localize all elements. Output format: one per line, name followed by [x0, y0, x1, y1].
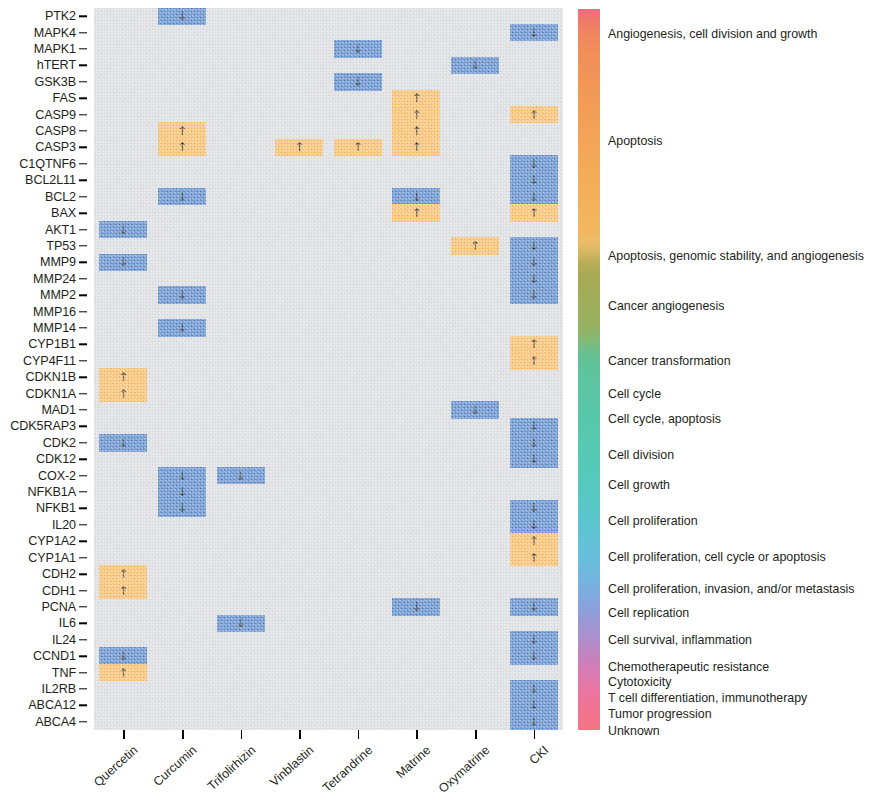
- compound-axis-tick: [534, 730, 536, 739]
- gene-label-c1qtnf6: C1QTNF6: [19, 158, 76, 170]
- down-arrow-icon: ↓: [236, 617, 246, 629]
- gene-label-fas: FAS: [53, 92, 77, 104]
- gene-axis-tick: [79, 606, 87, 607]
- gene-label-nfkb1: NFKB1: [36, 502, 76, 514]
- heatmap-cell: ↓: [510, 237, 558, 255]
- down-arrow-icon: ↓: [529, 716, 539, 728]
- gene-axis-tick: [79, 48, 87, 49]
- heatmap-cell: ↑: [392, 139, 440, 157]
- heatmap-cell: ↓: [510, 24, 558, 42]
- legend-entry: Angiogenesis, cell division and growth: [608, 27, 817, 41]
- gene-axis-tick: [79, 393, 87, 394]
- heatmap-cell: ↓: [334, 40, 382, 58]
- gene-label-mapk1: MAPK1: [34, 43, 76, 55]
- gene-axis-tick: [79, 655, 87, 656]
- legend-entry: Tumor progression: [608, 707, 712, 721]
- legend-entry: T cell differentiation, immunotherapy: [608, 691, 807, 705]
- gene-axis-tick: [79, 442, 87, 443]
- heatmap-cell: ↓: [510, 155, 558, 173]
- heatmap-cell: ↑: [510, 533, 558, 551]
- heatmap-cell: ↑: [99, 368, 147, 386]
- down-arrow-icon: ↓: [529, 256, 539, 268]
- up-arrow-icon: ↑: [118, 371, 128, 383]
- gene-label-mapk4: MAPK4: [34, 27, 76, 39]
- gene-axis-tick: [79, 130, 87, 131]
- down-arrow-icon: ↓: [118, 256, 128, 268]
- heatmap-cell: ↓: [392, 188, 440, 206]
- down-arrow-icon: ↓: [529, 699, 539, 711]
- heatmap-cell: ↑: [158, 139, 206, 157]
- gene-axis-tick: [79, 81, 87, 82]
- heatmap-cell: ↓: [158, 500, 206, 518]
- heatmap-cell: ↓: [99, 434, 147, 452]
- gene-axis-tick: [79, 196, 87, 197]
- down-arrow-icon: ↓: [177, 502, 187, 514]
- heatmap-cell: ↑: [392, 204, 440, 222]
- gene-axis-tick: [79, 541, 87, 542]
- heatmap-cell: ↓: [510, 451, 558, 469]
- heatmap-cell: ↓: [510, 500, 558, 518]
- up-arrow-icon: ↑: [411, 125, 421, 137]
- heatmap-cell: ↑: [392, 90, 440, 108]
- heatmap-cell: ↑: [99, 565, 147, 583]
- gene-axis-tick: [79, 459, 87, 460]
- gene-axis-labels: PTK2MAPK4MAPK1hTERTGSK3BFASCASP9CASP8CAS…: [0, 0, 88, 745]
- gene-label-mmp2: MMP2: [40, 289, 76, 301]
- gene-label-cox-2: COX-2: [38, 470, 76, 482]
- gene-label-cyp1a2: CYP1A2: [28, 535, 76, 547]
- gene-axis-tick: [79, 32, 87, 33]
- down-arrow-icon: ↓: [529, 634, 539, 646]
- heatmap-cell: ↑: [158, 122, 206, 140]
- gene-label-il2rb: IL2RB: [41, 683, 76, 695]
- gene-label-mmp16: MMP16: [33, 306, 76, 318]
- heatmap-cell: ↓: [99, 254, 147, 272]
- gene-label-cdh1: CDH1: [42, 585, 76, 597]
- up-arrow-icon: ↑: [529, 109, 539, 121]
- heatmap-cell: ↓: [99, 221, 147, 239]
- up-arrow-icon: ↑: [411, 92, 421, 104]
- compound-axis-tick: [241, 730, 243, 739]
- down-arrow-icon: ↓: [529, 601, 539, 613]
- gene-axis-tick: [79, 327, 87, 328]
- compound-label-quercetin: Quercetin: [6, 743, 140, 797]
- legend-entry: Cell cycle: [608, 387, 661, 401]
- gene-label-tp53: TP53: [46, 240, 76, 252]
- up-arrow-icon: ↑: [411, 141, 421, 153]
- legend-entry: Unknown: [608, 724, 660, 738]
- gene-axis-tick: [79, 623, 87, 624]
- down-arrow-icon: ↓: [177, 10, 187, 22]
- heatmap-cell: ↑: [510, 106, 558, 124]
- heatmap-cell: ↓: [451, 57, 499, 75]
- gene-axis-tick: [79, 409, 87, 410]
- down-arrow-icon: ↓: [177, 322, 187, 334]
- gene-axis-tick: [79, 508, 87, 509]
- heatmap-cell: ↓: [510, 286, 558, 304]
- heatmap-cell: ↓: [510, 254, 558, 272]
- up-arrow-icon: ↑: [118, 585, 128, 597]
- up-arrow-icon: ↑: [294, 141, 304, 153]
- gene-label-il24: IL24: [52, 634, 76, 646]
- gene-label-abca12: ABCA12: [28, 699, 76, 711]
- down-arrow-icon: ↓: [353, 76, 363, 88]
- gene-label-casp3: CASP3: [35, 141, 76, 153]
- gene-label-nfkb1a: NFKB1A: [28, 486, 76, 498]
- gene-label-tnf: TNF: [52, 667, 76, 679]
- down-arrow-icon: ↓: [118, 650, 128, 662]
- gene-axis-tick: [79, 180, 87, 181]
- gene-label-cdh2: CDH2: [42, 568, 76, 580]
- legend-entry: Cell division: [608, 448, 674, 462]
- compound-axis-tick: [475, 730, 477, 739]
- heatmap-cell: ↑: [334, 139, 382, 157]
- gene-label-abca4: ABCA4: [35, 716, 76, 728]
- down-arrow-icon: ↓: [177, 486, 187, 498]
- up-arrow-icon: ↑: [118, 388, 128, 400]
- gene-axis-tick: [79, 245, 87, 246]
- gene-axis-tick: [79, 524, 87, 525]
- heatmap-cell: ↑: [510, 352, 558, 370]
- gene-axis-tick: [79, 721, 87, 722]
- legend-entry: Cell proliferation, invasion, and/or met…: [608, 582, 855, 596]
- heatmap-cell: ↑: [510, 204, 558, 222]
- gene-axis-tick: [79, 344, 87, 345]
- legend-entry: Cell cycle, apoptosis: [608, 412, 721, 426]
- gene-axis-tick: [79, 114, 87, 115]
